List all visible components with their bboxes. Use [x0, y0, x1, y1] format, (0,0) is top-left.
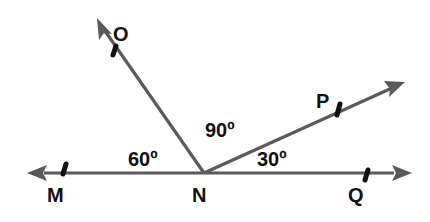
angle-label-onp: 90º — [205, 119, 235, 141]
label-q: Q — [348, 184, 364, 206]
arrow-right-icon — [392, 165, 412, 181]
angle-label-pnq: 30º — [257, 148, 287, 170]
tick-q — [365, 170, 368, 180]
label-m: M — [47, 184, 64, 206]
tick-p — [337, 104, 340, 115]
label-p: P — [316, 90, 329, 112]
angle-label-mno: 60º — [128, 148, 158, 170]
label-n: N — [192, 184, 206, 206]
tick-m — [63, 164, 66, 174]
tick-o — [113, 46, 116, 55]
label-o: O — [113, 23, 129, 45]
angle-diagram: M O P Q N 60º 90º 30º — [0, 0, 430, 222]
